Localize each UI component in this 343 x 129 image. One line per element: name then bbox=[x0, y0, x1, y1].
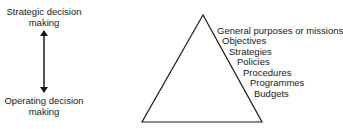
strategic-label-line1: Strategic decision bbox=[2, 6, 86, 17]
pyramid-level: Budgets bbox=[254, 88, 289, 99]
operating-label: Operating decision making bbox=[0, 95, 88, 117]
pyramid-level: Objectives bbox=[222, 35, 266, 46]
operating-label-line2: making bbox=[0, 106, 88, 117]
strategic-label: Strategic decision making bbox=[2, 6, 86, 28]
operating-label-line1: Operating decision bbox=[0, 95, 88, 106]
pyramid-level: Programmes bbox=[250, 77, 304, 88]
strategic-label-line2: making bbox=[2, 17, 86, 28]
pyramid-level: Policies bbox=[237, 56, 270, 67]
